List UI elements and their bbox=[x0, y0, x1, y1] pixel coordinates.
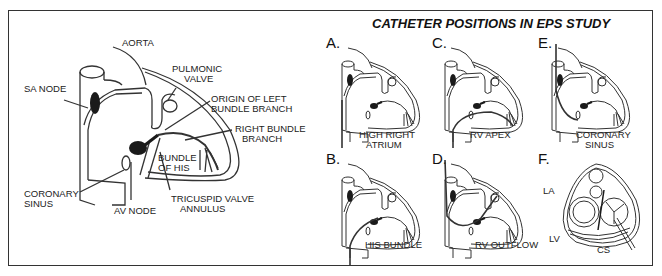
panel-b-caption-1: HIS BUNDLE bbox=[365, 240, 422, 250]
panel-a-caption-2: ATRIUM bbox=[366, 140, 402, 150]
panel-c-caption-1: RV APEX bbox=[470, 130, 511, 140]
label-av-node: AV NODE bbox=[114, 206, 156, 216]
panel-e-caption-2: SINUS bbox=[585, 140, 614, 150]
av-node-shape bbox=[129, 141, 147, 155]
label-rbb-2: BRANCH bbox=[242, 134, 282, 144]
sa-node-shape bbox=[90, 92, 100, 114]
panel-f-letter: F. bbox=[538, 150, 550, 167]
panel-f-label-la: LA bbox=[543, 186, 555, 196]
catheter-title: CATHETER POSITIONS IN EPS STUDY bbox=[372, 16, 610, 31]
label-sa-node: SA NODE bbox=[24, 84, 66, 94]
label-his-2: OF HIS bbox=[158, 163, 190, 173]
label-coronary-sinus-2: SINUS bbox=[24, 199, 53, 209]
panel-f-label-lv: LV bbox=[549, 234, 560, 244]
panel-d-caption-1: RV OUTFLOW bbox=[475, 240, 538, 250]
label-pulmonic-valve-2: VALVE bbox=[184, 74, 213, 84]
label-tricuspid-2: ANNULUS bbox=[180, 204, 225, 214]
panel-f-label-cs: CS bbox=[597, 245, 610, 255]
label-aorta: AORTA bbox=[122, 38, 154, 48]
label-origin-lbb-2: BUNDLE BRANCH bbox=[211, 104, 292, 114]
